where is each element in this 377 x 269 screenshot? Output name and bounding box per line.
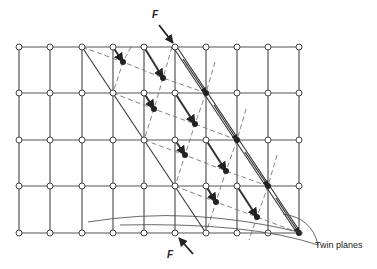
atom-open-circle [47, 90, 53, 96]
atom-open-circle [110, 137, 116, 143]
atom-open-circle [203, 230, 209, 236]
displacement-arrow-icon [144, 47, 163, 78]
atom-open-circle [203, 137, 209, 143]
displacement-arrow-icon [183, 59, 206, 93]
atom-twinned-dot [254, 214, 260, 220]
force-arrow-icon [179, 238, 193, 254]
atom-twinned-dot [182, 152, 188, 158]
atom-open-circle [79, 90, 85, 96]
atom-open-circle [172, 44, 178, 50]
atom-open-circle [110, 90, 116, 96]
displacement-arrow-icon [175, 93, 195, 124]
atom-twinned-dot [151, 106, 157, 112]
atom-open-circle [47, 137, 53, 143]
atom-open-circle [234, 90, 240, 96]
atom-open-circle [141, 90, 147, 96]
atom-open-circle [16, 230, 22, 236]
atom-open-circle [172, 90, 178, 96]
atom-open-circle [79, 137, 85, 143]
displacement-arrow-icon [214, 105, 237, 140]
atom-open-circle [47, 44, 53, 50]
atom-open-circle [79, 44, 85, 50]
atom-open-circle [79, 230, 85, 236]
atom-open-circle [265, 44, 271, 50]
atom-open-circle [110, 44, 116, 50]
displacement-arrow-icon [237, 186, 257, 217]
displacement-arrow-icon [206, 140, 226, 171]
atom-open-circle [234, 44, 240, 50]
atom-open-circle [141, 137, 147, 143]
atom-open-circle [141, 183, 147, 189]
atom-open-circle [110, 230, 116, 236]
twinning-diagram [0, 0, 377, 269]
atom-twinned-dot [223, 168, 229, 174]
atom-open-circle [265, 90, 271, 96]
atom-open-circle [234, 230, 240, 236]
force-label-top: F [152, 9, 158, 20]
atom-twinned-dot [192, 121, 198, 127]
atom-open-circle [141, 44, 147, 50]
atom-open-circle [16, 44, 22, 50]
atom-twinned-dot [265, 183, 271, 189]
atom-open-circle [47, 230, 53, 236]
atom-open-circle [16, 90, 22, 96]
atom-open-circle [141, 230, 147, 236]
atom-open-circle [79, 183, 85, 189]
atom-open-circle [296, 44, 302, 50]
atom-open-circle [16, 183, 22, 189]
lattice-grid [19, 47, 299, 233]
atom-open-circle [296, 90, 302, 96]
displacement-arrow-icon [245, 152, 268, 186]
atom-open-circle [110, 183, 116, 189]
force-label-bottom: F [167, 249, 173, 260]
atom-twinned-dot [120, 59, 126, 65]
atom-open-circle [16, 137, 22, 143]
atom-open-circle [203, 44, 209, 50]
twinned-column-dashed-line [113, 47, 131, 93]
atom-twinned-dot [213, 199, 219, 205]
atom-open-circle [203, 183, 209, 189]
atom-twinned-dot [296, 230, 302, 236]
atom-open-circle [296, 183, 302, 189]
force-arrow-icon [159, 25, 173, 43]
atom-open-circle [296, 137, 302, 143]
atom-open-circle [172, 137, 178, 143]
atom-open-circle [234, 183, 240, 189]
twin-planes-label: Twin planes [315, 240, 363, 250]
atom-twinned-dot [203, 90, 209, 96]
atom-open-circle [47, 183, 53, 189]
atom-open-circle [172, 230, 178, 236]
atom-twinned-dot [234, 137, 240, 143]
atom-twinned-dot [160, 75, 166, 81]
twinned-lattice-dashed-lines [82, 47, 299, 240]
atom-open-circle [172, 183, 178, 189]
atom-open-circle [265, 137, 271, 143]
